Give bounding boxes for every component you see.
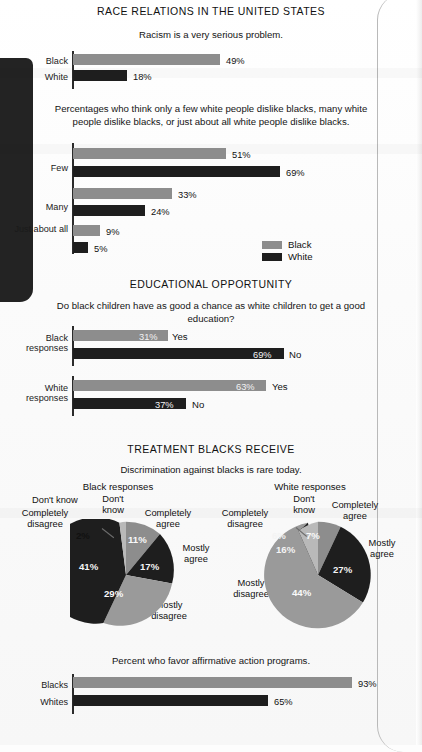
pie-value-black-mostly-disagree: 29% [104, 589, 123, 599]
subtitle-affirmative: Percent who favor affirmative action pro… [30, 655, 392, 668]
group-label-black-responses-2: responses [6, 343, 68, 354]
legend-label-black: Black [288, 240, 311, 250]
legend-label-white: White [288, 252, 313, 262]
bar-value-edu-white-yes: 63% [236, 382, 255, 393]
bar-value-edu-black-yes: 31% [139, 332, 158, 343]
group-label-white-responses-1: White [6, 383, 68, 394]
bar-value-few-black: 51% [232, 150, 251, 161]
legend-row-white: White [262, 252, 313, 262]
bar-affirmative-blacks [73, 677, 352, 688]
group-label-few: Few [10, 163, 68, 174]
pie-value-white-dont-know: 6% [272, 531, 286, 541]
bar-value-all-white: 5% [94, 244, 107, 255]
bar-value-all-black: 9% [106, 227, 119, 238]
bar-label-white: White [10, 72, 68, 83]
pie-title-black-responses: Black responses [48, 481, 188, 492]
bar-value-racism-black: 49% [226, 56, 245, 67]
pie-value-black-dont-know: 2% [76, 531, 90, 541]
legend-dislike: Black White [262, 240, 313, 264]
bar-label-blacks: Blacks [10, 680, 68, 691]
pie-value-black-completely-disagree: 41% [79, 562, 98, 572]
bar-answer-edu-black-no: No [289, 349, 301, 360]
bar-value-edu-white-no: 37% [155, 400, 174, 411]
pie-value-white-completely-agree: 7% [306, 531, 320, 541]
pie-value-black-mostly-agree: 17% [140, 562, 159, 572]
group-label-many: Many [10, 202, 68, 213]
legend-swatch-black [262, 241, 282, 249]
bar-racism-black [73, 54, 220, 65]
subtitle-dislike: Percentages who think only a few white p… [48, 103, 374, 128]
legend-row-black: Black [262, 240, 313, 250]
subtitle-racism: Racism is a very serious problem. [30, 29, 392, 42]
bar-few-white [73, 166, 280, 177]
pie-value-white-completely-disagree: 16% [276, 545, 295, 555]
bar-many-black [73, 188, 172, 199]
section-title-race-relations: RACE RELATIONS IN THE UNITED STATES [0, 5, 422, 17]
section-title-treatment: TREATMENT BLACKS RECEIVE [0, 443, 422, 455]
bar-few-black [73, 148, 226, 159]
bar-answer-edu-white-yes: Yes [272, 381, 288, 392]
bar-answer-edu-white-no: No [192, 399, 204, 410]
bar-all-black [73, 225, 100, 236]
pie-label-black-dont-know-text: Don't know [92, 494, 134, 516]
subtitle-education: Do black children have as good a chance … [52, 300, 370, 325]
bar-affirmative-whites [73, 695, 268, 706]
bar-all-white [73, 242, 88, 253]
bar-many-white [73, 205, 145, 216]
pie-label-white-dont-know: Don't know [283, 494, 325, 516]
section-title-educational-opportunity: EDUCATIONAL OPPORTUNITY [0, 278, 422, 290]
bar-value-edu-black-no: 69% [253, 350, 272, 361]
pie-value-white-mostly-disagree: 44% [292, 588, 311, 598]
bar-value-many-black: 33% [178, 190, 197, 201]
group-label-white-responses-2: responses [6, 393, 68, 404]
group-label-black-responses-1: Black [6, 333, 68, 344]
group-label-just-about-all: Just about all [10, 224, 68, 235]
bar-value-affirmative-blacks: 93% [358, 679, 377, 690]
pie-value-white-mostly-agree: 27% [333, 565, 352, 575]
bar-answer-edu-black-yes: Yes [172, 331, 188, 342]
subtitle-treatment: Discrimination against blacks is rare to… [30, 464, 392, 477]
pie-title-white-responses: White responses [240, 481, 380, 492]
bar-value-affirmative-whites: 65% [274, 697, 293, 708]
bar-racism-white [73, 70, 127, 81]
pie-label-black-dont-know: Don't know [32, 495, 76, 506]
legend-swatch-white [262, 253, 282, 261]
bar-label-black: Black [10, 56, 68, 67]
pie-value-black-completely-agree: 11% [128, 535, 147, 545]
bar-value-few-white: 69% [286, 168, 305, 179]
bar-label-whites: Whites [10, 697, 68, 708]
bar-value-racism-white: 18% [133, 72, 152, 83]
bar-value-many-white: 24% [151, 207, 170, 218]
